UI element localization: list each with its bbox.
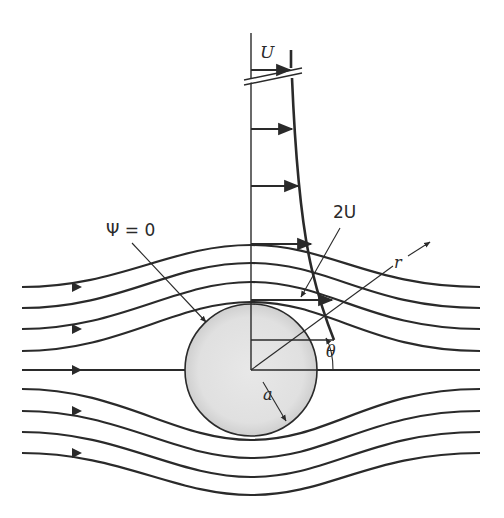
label-2U: 2U bbox=[333, 202, 356, 222]
label-psi-zero: Ψ = 0 bbox=[106, 220, 155, 240]
label-a: a bbox=[263, 385, 273, 404]
label-theta: θ bbox=[326, 342, 336, 361]
label-U: U bbox=[260, 42, 275, 62]
velocity-arrows bbox=[251, 70, 332, 300]
flow-direction-arrows bbox=[72, 282, 82, 458]
cylinder-flow-diagram: U 2U Ψ = 0 r θ a bbox=[0, 0, 504, 518]
streamline-8 bbox=[22, 432, 480, 477]
label-r: r bbox=[394, 253, 403, 272]
streamline-9 bbox=[22, 453, 480, 495]
